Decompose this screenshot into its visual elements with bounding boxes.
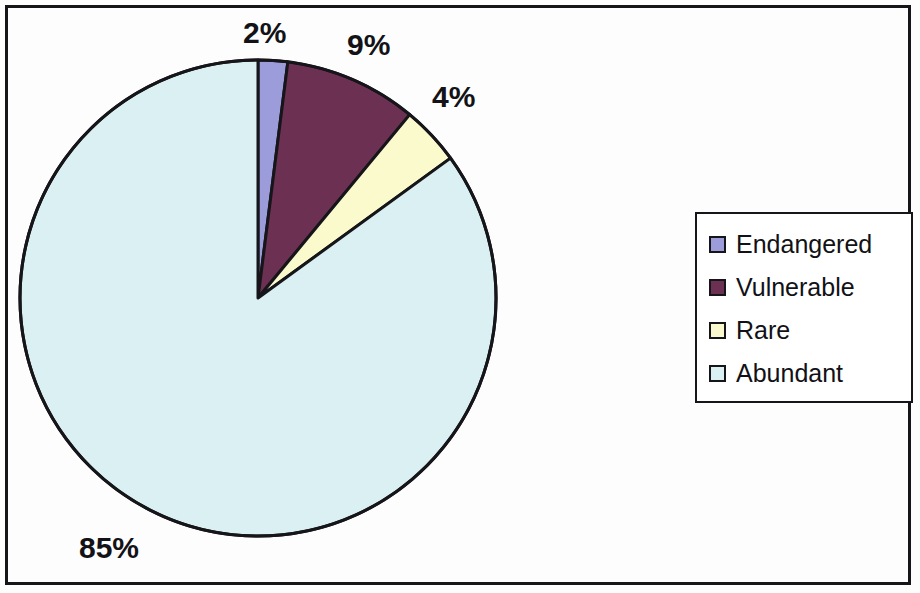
chart-canvas: of the total and conservation programme … [0, 0, 920, 593]
legend-swatch-abundant [709, 365, 726, 382]
pie-slices [20, 60, 496, 536]
legend-label-vulnerable: Vulnerable [736, 275, 855, 300]
legend-swatch-endangered [709, 236, 726, 253]
legend-item-rare: Rare [709, 309, 911, 352]
legend-item-abundant: Abundant [709, 352, 911, 395]
legend-swatch-rare [709, 322, 726, 339]
legend-label-endangered: Endangered [736, 232, 872, 257]
legend-item-endangered: Endangered [709, 223, 911, 266]
data-label-vulnerable: 9% [347, 28, 390, 62]
legend-label-abundant: Abundant [736, 361, 843, 386]
chart-legend: Endangered Vulnerable Rare Abundant [695, 212, 913, 403]
data-label-endangered: 2% [243, 16, 286, 50]
data-label-abundant: 85% [79, 531, 139, 565]
data-label-rare: 4% [432, 80, 475, 114]
legend-item-vulnerable: Vulnerable [709, 266, 911, 309]
legend-label-rare: Rare [736, 318, 790, 343]
legend-swatch-vulnerable [709, 279, 726, 296]
